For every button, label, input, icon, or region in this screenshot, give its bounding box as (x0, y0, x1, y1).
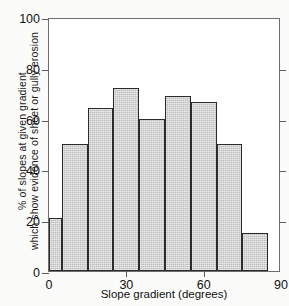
y-axis-tick-right (279, 171, 286, 172)
y-axis-tick-label: 20 (26, 215, 40, 229)
y-axis-tick-right (279, 222, 286, 223)
bar (191, 102, 217, 271)
y-axis-title-line-1: % of slopes at given gradient (16, 72, 29, 210)
y-axis-tick (42, 222, 49, 223)
bar (217, 144, 243, 271)
y-axis-tick-label: 40 (26, 164, 40, 178)
y-axis-tick-right (279, 70, 286, 71)
bar (242, 233, 268, 271)
y-axis-tick (42, 273, 49, 274)
y-axis-tick-right (279, 121, 286, 122)
y-axis-tick (42, 70, 49, 71)
bar (62, 144, 88, 271)
bar (139, 119, 165, 271)
y-axis-tick-label: 100 (19, 12, 40, 26)
plot-area: 020406080100 0306090 (48, 18, 280, 272)
bar (49, 218, 62, 271)
chart-figure: % of slopes at given gradient which show… (0, 0, 289, 306)
y-axis-tick (42, 19, 49, 20)
bar (113, 88, 139, 271)
y-axis-tick-label: 80 (26, 63, 40, 77)
x-axis-title: Slope gradient (degrees) (48, 288, 280, 300)
x-axis-tick (204, 271, 205, 277)
y-axis-tick (42, 171, 49, 172)
x-axis-tick (126, 271, 127, 277)
bar-series (49, 19, 279, 271)
bar (165, 96, 191, 271)
y-axis-tick (42, 121, 49, 122)
bar (88, 108, 114, 271)
y-axis-tick-label: 60 (26, 114, 40, 128)
y-axis-tick-label: 0 (33, 266, 40, 280)
